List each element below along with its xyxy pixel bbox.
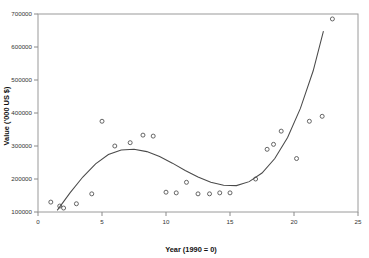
x-tick-label: 20 <box>291 218 298 225</box>
y-tick-label: 400000 <box>11 109 32 116</box>
y-tick-label: 500000 <box>11 76 32 83</box>
y-axis-label: Value ('000 US $) <box>2 86 11 145</box>
x-tick-label: 0 <box>36 218 40 225</box>
y-tick-label: 700000 <box>11 10 32 17</box>
x-tick-label: 10 <box>163 218 170 225</box>
scatter-plot-figure: 1000002000003000004000005000006000007000… <box>0 0 369 258</box>
x-tick-label: 5 <box>100 218 104 225</box>
y-tick-label: 100000 <box>11 208 32 215</box>
figure-background <box>0 0 369 258</box>
y-tick-label: 200000 <box>11 175 32 182</box>
chart-canvas: 1000002000003000004000005000006000007000… <box>0 0 369 258</box>
y-tick-label: 600000 <box>11 43 32 50</box>
x-tick-label: 25 <box>355 218 362 225</box>
x-axis-label: Year (1990 = 0) <box>165 245 217 254</box>
y-tick-label: 300000 <box>11 142 32 149</box>
x-tick-label: 15 <box>227 218 234 225</box>
